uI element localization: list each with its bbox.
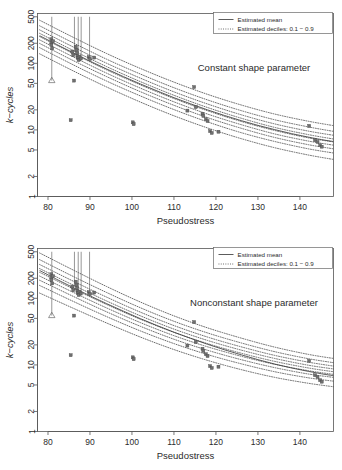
data-point [320, 145, 323, 148]
x-tick-label: 120 [209, 202, 223, 212]
data-point [79, 57, 82, 60]
legend-label: Estimated mean [238, 16, 283, 23]
data-point [194, 341, 197, 344]
legend-label: Estimated mean [238, 251, 283, 258]
y-tick-label: 2 [27, 409, 37, 414]
data-point [186, 344, 189, 347]
data-point [210, 131, 213, 134]
y-tick-label: 100 [27, 56, 37, 70]
legend-label: Estimated deciles: 0.1 − 0.9 [238, 260, 315, 267]
x-tick-label: 100 [125, 437, 139, 447]
curves-group [40, 252, 334, 387]
x-tick-label: 100 [125, 202, 139, 212]
plot-nonconstant-shape: 125102050100200500k−cycles80901001101201… [0, 235, 342, 470]
data-point [316, 140, 319, 143]
data-point [206, 355, 209, 358]
data-point [210, 366, 213, 369]
data-point [71, 50, 74, 53]
data-point [75, 286, 78, 289]
data-point [52, 40, 55, 43]
data-point [74, 45, 77, 48]
x-tick-label: 110 [167, 202, 181, 212]
data-point [202, 349, 205, 352]
data-point [71, 285, 74, 288]
curves-group [40, 17, 334, 160]
data-point [132, 123, 135, 126]
data-point [93, 56, 96, 59]
y-tick-label: 5 [27, 382, 37, 387]
data-point [75, 48, 78, 51]
y-tick-label: 500 [27, 244, 37, 258]
data-point [75, 51, 78, 54]
data-point [69, 354, 72, 357]
x-tick-label: 90 [85, 202, 95, 212]
data-point [217, 130, 220, 133]
x-tick-label: 120 [209, 437, 223, 447]
data-point [320, 380, 323, 383]
figure-container: 125102050100200500k−cycles80901001101201… [0, 0, 342, 470]
data-point [51, 282, 54, 285]
data-point [206, 120, 209, 123]
y-axis-title: k−cycles [4, 86, 15, 123]
data-point [132, 358, 135, 361]
x-tick-label: 80 [43, 437, 53, 447]
y-tick-label: 200 [27, 271, 37, 285]
decile-curve [40, 37, 334, 142]
y-tick-label: 200 [27, 36, 37, 50]
y-tick-label: 5 [27, 147, 37, 152]
x-tick-label: 80 [43, 202, 53, 212]
data-point [73, 314, 76, 317]
legend-label: Estimated deciles: 0.1 − 0.9 [238, 25, 315, 32]
x-tick-label: 140 [293, 202, 307, 212]
data-point [51, 47, 54, 50]
y-axis-title: k−cycles [4, 321, 15, 358]
x-tick-label: 90 [85, 437, 95, 447]
chart-panel-nonconstant-shape: 125102050100200500k−cycles80901001101201… [0, 235, 342, 470]
data-point [50, 43, 53, 46]
data-point [308, 359, 311, 362]
y-tick-label: 1 [27, 194, 37, 199]
data-point [202, 114, 205, 117]
legend: Estimated meanEstimated deciles: 0.1 − 0… [214, 248, 333, 269]
y-tick-label: 20 [27, 340, 37, 350]
y-tick-label: 20 [27, 105, 37, 115]
data-point [316, 375, 319, 378]
x-tick-label: 110 [167, 437, 181, 447]
x-tick-label: 140 [293, 437, 307, 447]
data-point [75, 283, 78, 286]
data-point [69, 119, 72, 122]
data-point [88, 58, 91, 61]
decile-curve [40, 272, 334, 371]
decile-curve [40, 26, 334, 132]
panel-annotation: Constant shape parameter [198, 62, 310, 73]
x-axis-title: Pseudostress [157, 215, 215, 226]
data-point [217, 365, 220, 368]
data-point [93, 291, 96, 294]
y-tick-label: 2 [27, 174, 37, 179]
data-point [186, 109, 189, 112]
data-point [194, 106, 197, 109]
data-point [52, 275, 55, 278]
plot-constant-shape: 125102050100200500k−cycles80901001101201… [0, 0, 342, 235]
decile-curve [40, 280, 334, 377]
legend: Estimated meanEstimated deciles: 0.1 − 0… [214, 13, 333, 34]
data-point [73, 79, 76, 82]
y-tick-label: 50 [27, 78, 37, 88]
data-point [193, 86, 196, 89]
data-point [72, 54, 75, 57]
y-tick-label: 500 [27, 9, 37, 23]
data-point [79, 292, 82, 295]
x-tick-label: 130 [251, 437, 265, 447]
panel-annotation: Nonconstant shape parameter [190, 297, 318, 308]
decile-curve [40, 30, 334, 135]
chart-panel-constant-shape: 125102050100200500k−cycles80901001101201… [0, 0, 342, 235]
mean-curve [40, 36, 334, 142]
data-point [193, 321, 196, 324]
data-point [88, 293, 91, 296]
data-point [72, 289, 75, 292]
x-tick-label: 130 [251, 202, 265, 212]
data-point [308, 124, 311, 127]
x-axis-title: Pseudostress [157, 450, 215, 461]
data-point [50, 278, 53, 281]
y-tick-label: 50 [27, 313, 37, 323]
